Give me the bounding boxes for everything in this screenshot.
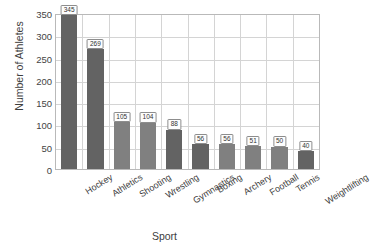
bar-cell: 51 [240, 15, 266, 169]
bar [114, 122, 130, 169]
bar-cell: 40 [293, 15, 319, 169]
bar [219, 144, 235, 169]
bar-cell: 105 [109, 15, 135, 169]
bar [245, 146, 261, 169]
bar-value-label: 88 [168, 119, 181, 130]
bar-series: 345269105104885656515040 [56, 15, 319, 169]
y-axis-tick: 200 [36, 75, 52, 86]
y-axis-tick-labels: 050100150200250300350 [18, 14, 52, 174]
bar-value-label: 56 [220, 134, 233, 145]
x-axis-tick: Hockey [84, 172, 115, 196]
y-axis-tick: 250 [36, 53, 52, 64]
x-axis-tick: Weightlifting [323, 172, 370, 206]
bar-value-label: 105 [113, 112, 130, 123]
y-axis-tick: 100 [36, 120, 52, 131]
bar-cell: 50 [266, 15, 292, 169]
bar [192, 144, 208, 169]
bar [166, 130, 182, 169]
bar [61, 15, 77, 169]
bar [140, 123, 156, 169]
y-axis-tick: 300 [36, 31, 52, 42]
bar-cell: 345 [56, 15, 82, 169]
x-axis-title: Sport [0, 230, 329, 242]
bar-value-label: 104 [140, 112, 157, 123]
bar-cell: 104 [135, 15, 161, 169]
y-axis-tick: 50 [41, 142, 52, 153]
x-axis-tick-labels: HockeyAthleticsShootingWrestlingGymnasti… [55, 172, 320, 230]
bar-cell: 88 [161, 15, 187, 169]
bar [87, 49, 103, 169]
bar-value-label: 40 [299, 141, 312, 152]
bar-value-label: 50 [273, 136, 286, 147]
bar [298, 151, 314, 169]
y-axis-tick: 350 [36, 9, 52, 20]
bar-cell: 56 [187, 15, 213, 169]
bar-value-label: 345 [61, 5, 78, 16]
y-axis-tick: 150 [36, 98, 52, 109]
bar-cell: 56 [214, 15, 240, 169]
bar-value-label: 51 [247, 136, 260, 147]
bar-cell: 269 [82, 15, 108, 169]
x-axis-tick: Archery [242, 172, 274, 197]
y-axis-tick: 0 [47, 165, 52, 176]
bar-value-label: 269 [87, 39, 104, 50]
bar-value-label: 56 [194, 134, 207, 145]
bar [271, 147, 287, 169]
plot-area: 345269105104885656515040 [55, 14, 320, 170]
